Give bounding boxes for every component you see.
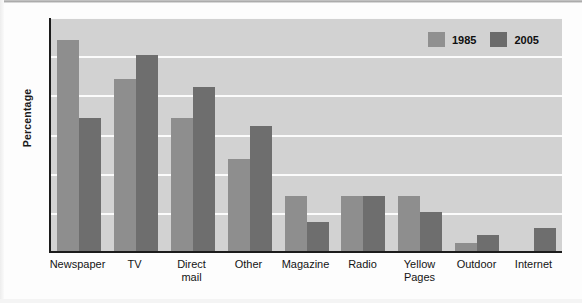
x-tick-label: Other bbox=[220, 258, 277, 284]
bar-2005 bbox=[250, 126, 272, 251]
bar-2005 bbox=[307, 222, 329, 251]
bar-group bbox=[392, 18, 449, 251]
bar-group bbox=[278, 18, 335, 251]
bar-1985 bbox=[398, 196, 420, 251]
bar-1985 bbox=[285, 196, 307, 251]
legend-item-2005: 2005 bbox=[490, 32, 538, 47]
x-tick-label: Yellow Pages bbox=[391, 258, 448, 284]
plot-inner bbox=[51, 18, 562, 251]
bar-2005 bbox=[363, 196, 385, 251]
plot-area bbox=[49, 18, 562, 253]
x-tick-label: TV bbox=[106, 258, 163, 284]
x-tick-label: Direct mail bbox=[163, 258, 220, 284]
page-edge-top bbox=[0, 0, 582, 3]
bar-2005 bbox=[193, 87, 215, 252]
x-tick-label: Radio bbox=[334, 258, 391, 284]
y-axis-title: Percentage bbox=[21, 63, 33, 173]
bar-1985 bbox=[455, 243, 477, 251]
x-axis-labels: NewspaperTVDirect mailOtherMagazineRadio… bbox=[49, 258, 562, 284]
bar-2005 bbox=[79, 118, 101, 251]
legend-label-1985: 1985 bbox=[452, 34, 476, 46]
x-tick-label: Magazine bbox=[277, 258, 334, 284]
bar-group bbox=[505, 18, 562, 251]
bar-2005 bbox=[477, 235, 499, 251]
legend-label-2005: 2005 bbox=[514, 34, 538, 46]
x-tick-label: Internet bbox=[505, 258, 562, 284]
bar-2005 bbox=[420, 212, 442, 251]
bar-group bbox=[108, 18, 165, 251]
bar-1985 bbox=[341, 196, 363, 251]
bar-groups bbox=[51, 18, 562, 251]
bar-1985 bbox=[57, 40, 79, 252]
bar-group bbox=[165, 18, 222, 251]
bar-group bbox=[335, 18, 392, 251]
chart-page: Percentage 051015202530 NewspaperTVDirec… bbox=[0, 0, 582, 303]
legend-item-1985: 1985 bbox=[428, 32, 476, 47]
x-tick-label: Outdoor bbox=[448, 258, 505, 284]
legend-swatch-2005-icon bbox=[490, 32, 507, 47]
chart-legend: 1985 2005 bbox=[428, 32, 539, 47]
page-edge-left bbox=[0, 0, 4, 303]
legend-swatch-1985-icon bbox=[428, 32, 445, 47]
page-edge-bottom bbox=[0, 299, 582, 303]
bar-2005 bbox=[136, 55, 158, 251]
bar-group bbox=[51, 18, 108, 251]
bar-1985 bbox=[228, 159, 250, 251]
bar-group bbox=[221, 18, 278, 251]
bar-1985 bbox=[171, 118, 193, 251]
bar-2005 bbox=[534, 228, 556, 252]
bar-1985 bbox=[114, 79, 136, 251]
bar-group bbox=[448, 18, 505, 251]
x-tick-label: Newspaper bbox=[49, 258, 106, 284]
